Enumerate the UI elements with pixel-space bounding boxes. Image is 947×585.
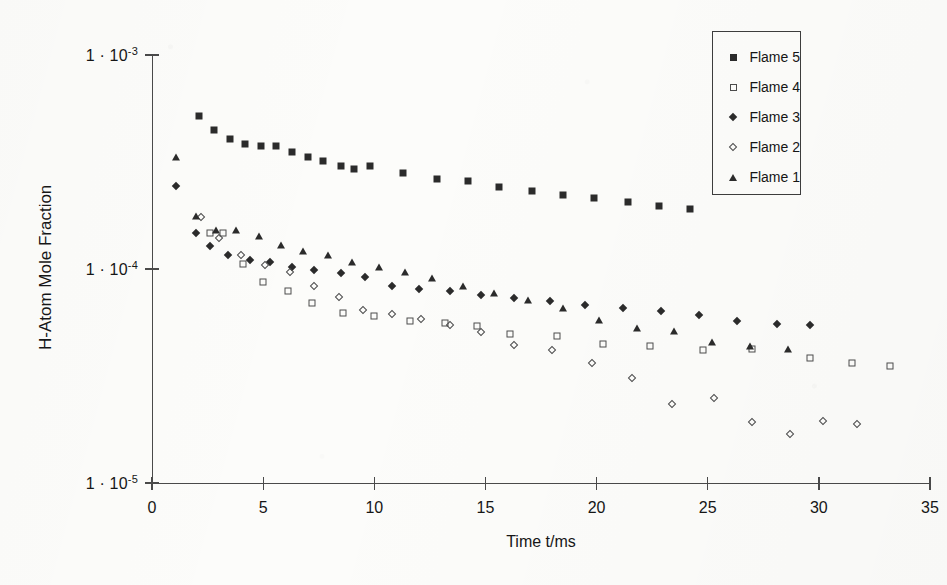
data-point xyxy=(657,307,665,315)
x-axis-title: Time t/ms xyxy=(506,533,576,551)
data-point xyxy=(284,287,291,294)
data-point xyxy=(732,317,740,325)
data-point xyxy=(260,279,267,286)
data-point xyxy=(195,112,202,119)
data-point xyxy=(428,274,436,281)
data-point xyxy=(366,163,373,170)
legend-item-label: Flame 1 xyxy=(749,169,800,185)
data-point xyxy=(700,346,707,353)
open-square-icon xyxy=(723,81,743,93)
x-tick-label: 5 xyxy=(259,499,268,517)
x-tick-label: 20 xyxy=(588,499,606,517)
data-point xyxy=(192,229,200,237)
data-point xyxy=(886,363,893,370)
data-point xyxy=(371,313,378,320)
y-tick-label: 1 · 10-4 xyxy=(86,259,138,279)
x-tick-label: 15 xyxy=(477,499,495,517)
data-point xyxy=(340,310,347,317)
legend-item-label: Flame 4 xyxy=(749,79,800,95)
data-point xyxy=(223,251,231,259)
data-point xyxy=(359,306,367,314)
data-point xyxy=(406,318,413,325)
x-tick xyxy=(151,477,152,490)
data-point xyxy=(619,304,627,312)
y-tick xyxy=(145,268,159,269)
legend-item-flame-4[interactable]: Flame 4 xyxy=(713,72,800,102)
scatter-plot: 1 · 10-31 · 10-41 · 10-5 05101520253035 … xyxy=(0,0,947,585)
data-point xyxy=(237,251,245,259)
x-axis-line xyxy=(152,483,930,484)
data-point xyxy=(628,374,636,382)
data-point xyxy=(232,227,240,234)
legend-item-flame-3[interactable]: Flame 3 xyxy=(713,102,800,132)
data-point xyxy=(588,358,596,366)
x-tick xyxy=(374,477,375,490)
data-point xyxy=(309,299,316,306)
y-axis-title: H-Atom Mole Fraction xyxy=(36,185,56,350)
data-point xyxy=(401,268,409,275)
data-point xyxy=(257,143,264,150)
x-tick xyxy=(596,477,597,490)
data-point xyxy=(417,315,425,323)
data-point xyxy=(506,331,513,338)
data-point xyxy=(710,394,718,402)
data-point xyxy=(748,418,756,426)
legend-item-flame-1[interactable]: Flame 1 xyxy=(713,162,800,192)
data-point xyxy=(560,191,567,198)
data-point xyxy=(459,283,467,290)
x-tick xyxy=(818,477,819,490)
legend-item-label: Flame 2 xyxy=(749,139,800,155)
data-point xyxy=(446,287,454,295)
data-point xyxy=(553,333,560,340)
data-point xyxy=(310,266,318,274)
data-point xyxy=(246,256,254,264)
data-point xyxy=(324,252,332,259)
data-point xyxy=(477,291,485,299)
data-point xyxy=(320,157,327,164)
data-point xyxy=(591,195,598,202)
marker-glyph xyxy=(729,113,737,121)
data-point xyxy=(746,343,754,350)
data-point xyxy=(600,341,607,348)
data-point xyxy=(495,183,502,190)
figure-canvas: 1 · 10-31 · 10-41 · 10-5 05101520253035 … xyxy=(0,0,947,585)
data-point xyxy=(446,321,454,329)
y-tick-label: 1 · 10-5 xyxy=(86,473,138,493)
data-point xyxy=(849,359,856,366)
data-point xyxy=(464,177,471,184)
data-point xyxy=(289,149,296,156)
data-point xyxy=(806,354,813,361)
legend-item-flame-5[interactable]: Flame 5 xyxy=(713,42,800,72)
x-tick-label: 25 xyxy=(699,499,717,517)
data-point xyxy=(277,241,285,248)
data-point xyxy=(806,320,814,328)
data-point xyxy=(548,345,556,353)
data-point xyxy=(559,305,567,312)
data-point xyxy=(304,154,311,161)
data-point xyxy=(529,187,536,194)
data-point xyxy=(242,140,249,147)
data-point xyxy=(226,136,233,143)
data-point xyxy=(337,269,345,277)
x-tick xyxy=(929,477,930,490)
data-point xyxy=(490,290,498,297)
legend-item-flame-2[interactable]: Flame 2 xyxy=(713,132,800,162)
marker-glyph xyxy=(730,54,737,61)
y-tick-label: 1 · 10-3 xyxy=(86,45,138,65)
data-point xyxy=(172,181,180,189)
data-point xyxy=(273,143,280,150)
data-point xyxy=(852,420,860,428)
filled-triangle-icon xyxy=(723,171,743,183)
data-point xyxy=(708,339,716,346)
data-point xyxy=(624,199,631,206)
data-point xyxy=(786,429,794,437)
data-point xyxy=(414,284,422,292)
data-point xyxy=(668,399,676,407)
data-point xyxy=(299,247,307,254)
data-point xyxy=(581,301,589,309)
open-diamond-icon xyxy=(723,141,743,153)
data-point xyxy=(819,417,827,425)
legend-item-label: Flame 3 xyxy=(749,109,800,125)
data-point xyxy=(400,169,407,176)
x-tick-label: 35 xyxy=(921,499,939,517)
